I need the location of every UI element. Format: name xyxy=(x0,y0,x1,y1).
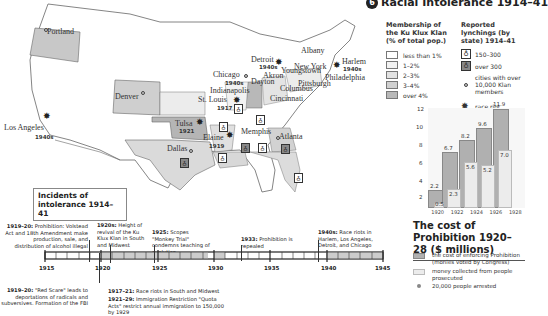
noose-icon-light: ♁ xyxy=(258,143,267,153)
city-los-angeles: Los Angeles xyxy=(4,123,44,132)
event-race-riots-1940s: 1940s: Race riots in Harlem, Los Angeles… xyxy=(318,229,382,249)
city-st-louis: St. Louis xyxy=(198,95,227,104)
noose-icon-light: ♁ xyxy=(218,153,227,163)
city-dallas: Dallas xyxy=(167,144,187,153)
noose-icon-light: ♁ xyxy=(219,122,228,132)
noose-icon-light: ♁ xyxy=(461,49,471,59)
noose-icon-dark: ♁ xyxy=(180,158,189,168)
city-chicago: Chicago xyxy=(213,70,240,79)
city-harlem: Harlem xyxy=(342,57,366,66)
noose-icon-light: ♁ xyxy=(234,104,243,114)
event-prohibition: 1919–20: Prohibition: Volstead Act and 1… xyxy=(3,223,88,249)
city-memphis: Memphis xyxy=(241,127,271,136)
timeline-title: Incidents of intolerance 1914–41 xyxy=(33,188,127,221)
riot-icon: ✸ xyxy=(43,112,51,121)
city-atlanta: Atlanta xyxy=(279,132,303,141)
city-portland: Portland xyxy=(47,27,74,36)
riot-icon: ✸ xyxy=(226,131,234,140)
chart-x-axis: 1920 1922 1924 1926 1928 xyxy=(428,209,525,215)
noose-icon-light: ♁ xyxy=(294,173,303,183)
city-detroit: Detroit xyxy=(251,55,274,64)
map-title: 6Racial Intolerance 1914–41 xyxy=(366,0,548,9)
noose-icon-dark: ♁ xyxy=(241,143,250,153)
prohibition-chart: 12 10 8 6 4 2 2.2 6.7 8.2 9.6 11.9 0.5 2… xyxy=(400,100,527,208)
lynch-legend: Reported lynchings (by state) 1914–41 ♁1… xyxy=(461,21,527,111)
city-denver: Denver xyxy=(115,92,139,101)
city-cincinnati: Cincinnati xyxy=(270,94,303,103)
noose-icon-light: ♁ xyxy=(256,115,265,125)
city-dot-icon xyxy=(244,74,248,78)
chart-legend: the cost of enforcing Prohibition (monie… xyxy=(413,252,527,290)
chart-plot: 2.2 6.7 8.2 9.6 11.9 0.5 2.3 5.6 5.2 7.0 xyxy=(428,108,525,208)
event-klan-revival: 1920s: Height of revival of the Ku Klux … xyxy=(97,222,147,248)
city-albany: Albany xyxy=(301,46,325,55)
klan-legend: Membership of the Ku Klux Klan (% of tot… xyxy=(386,21,448,100)
bar-collected-1928 xyxy=(498,150,512,208)
noose-icon-dark: ♁ xyxy=(461,61,471,71)
arrest-dot-icon xyxy=(417,284,421,288)
city-dot-icon xyxy=(44,28,48,32)
city-elaine: Elaine xyxy=(203,133,223,142)
city-dot-icon xyxy=(141,91,145,95)
event-race-riots-1917: 1917–21: Race riots in South and Midwest xyxy=(108,288,228,295)
city-dot-icon xyxy=(464,83,468,87)
event-repeal: 1933: Prohibition is repealed xyxy=(241,236,293,249)
noose-icon-dark: ♁ xyxy=(281,144,290,154)
city-dot-icon xyxy=(189,149,193,153)
city-indianapolis: Indianapolis xyxy=(210,86,250,95)
riot-icon: ✸ xyxy=(196,118,204,127)
riot-icon: ✸ xyxy=(333,61,341,70)
event-quota-acts: 1921–29: Immigration Restriction "Quota … xyxy=(108,296,228,316)
city-tulsa: Tulsa xyxy=(175,119,193,128)
event-red-scare: 1919–20: "Red Scare" leads to deportatio… xyxy=(0,287,88,307)
city-dot-icon xyxy=(276,136,280,140)
city-new-york: New York xyxy=(294,62,326,71)
city-philadelphia: Philadelphia xyxy=(325,73,365,82)
